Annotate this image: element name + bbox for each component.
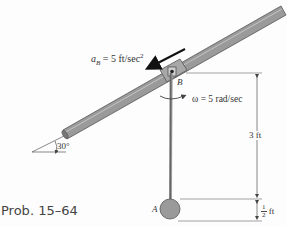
dimension-unit: ft <box>269 206 275 216</box>
angle-label: 30° <box>57 142 70 151</box>
ball-a <box>160 199 180 219</box>
pendulum-rod <box>171 73 173 199</box>
problem-caption: Prob. 15–64 <box>1 204 78 217</box>
problem-figure: aB = 5 ft/sec2 B ω = 5 rad/sec 30° 3 ft … <box>0 0 287 227</box>
dimension-3ft-label: 3 ft <box>249 131 261 140</box>
angular-velocity-label: ω = 5 rad/sec <box>192 95 242 105</box>
accel-exponent: 2 <box>140 52 144 60</box>
fraction-half: 12 <box>261 204 267 219</box>
diagram-canvas <box>0 0 287 227</box>
point-a-label: A <box>152 205 158 214</box>
dimension-half-ft-label: 12 ft <box>261 204 274 219</box>
acceleration-label: aB = 5 ft/sec2 <box>91 53 144 67</box>
point-b-label: B <box>177 78 183 87</box>
accel-value: = 5 ft/sec <box>100 53 140 64</box>
